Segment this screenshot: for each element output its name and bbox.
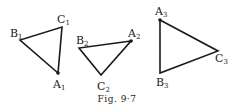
triangle-3-edges	[160, 20, 218, 73]
label-b1: B1	[10, 27, 23, 41]
label-a2: A2	[127, 27, 140, 41]
label-a1: A1	[52, 78, 65, 92]
label-b2: B2	[76, 34, 89, 48]
vertex-a3-dot	[158, 18, 162, 22]
label-c1: C1	[57, 13, 70, 27]
triangle-1-edges	[20, 27, 62, 73]
triangle-3: A3 C3 B3	[154, 5, 228, 90]
label-b3: B3	[156, 76, 169, 90]
triangle-1: B1 C1 A1	[10, 13, 70, 92]
vertex-a1-dot	[56, 71, 60, 75]
label-c3: C3	[215, 52, 228, 66]
figure-canvas: B1 C1 A1 B2 A2 C2 A3 C3 B3 Fig. 9·7	[0, 0, 234, 108]
label-c2: C2	[97, 80, 110, 94]
triangle-2: B2 A2 C2	[76, 27, 140, 94]
figure-caption: Fig. 9·7	[98, 94, 137, 104]
figure-svg: B1 C1 A1 B2 A2 C2 A3 C3 B3 Fig. 9·7	[0, 0, 234, 108]
label-a3: A3	[154, 5, 167, 19]
